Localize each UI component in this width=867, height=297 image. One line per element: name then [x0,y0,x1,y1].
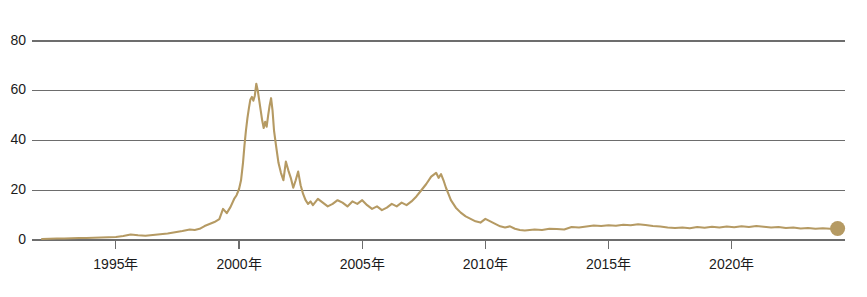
x-tick-label-2020: 2020年 [709,256,754,272]
end-point-dot [830,221,845,236]
y-tick-label-20: 20 [10,181,26,197]
x-tick-label-2010: 2010年 [463,256,508,272]
y-tick-label-40: 40 [10,131,26,147]
x-axis-labels: 1995年2000年2005年2010年2015年2020年 [93,256,754,272]
line-chart: 020406080 1995年2000年2005年2010年2015年2020年 [0,0,867,297]
x-tick-label-1995: 1995年 [93,256,138,272]
x-axis-ticks [116,240,732,249]
gridlines [32,41,845,240]
series-line-1 [42,84,838,239]
data-series [42,84,838,239]
x-tick-label-2015: 2015年 [586,256,631,272]
chart-container: 020406080 1995年2000年2005年2010年2015年2020年 [0,0,867,297]
end-point-marker [830,221,845,236]
y-axis-labels: 020406080 [10,32,26,247]
x-tick-label-2000: 2000年 [216,256,261,272]
y-tick-label-0: 0 [18,231,26,247]
y-tick-label-60: 60 [10,81,26,97]
x-tick-label-2005: 2005年 [340,256,385,272]
y-tick-label-80: 80 [10,32,26,48]
